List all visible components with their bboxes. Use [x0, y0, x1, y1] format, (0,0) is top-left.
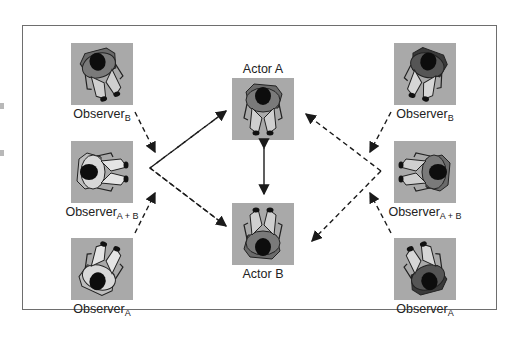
edge-mark: [0, 103, 4, 109]
observer-b-left-label: ObserverB: [52, 107, 152, 123]
observer-a-right-figure: [394, 238, 456, 300]
observer-ab-right-label: ObserverA + B: [375, 205, 475, 221]
observer-a-right-label: ObserverA: [375, 302, 475, 318]
observer-b-left-figure: [71, 43, 133, 105]
observer-a-left-figure: [71, 238, 133, 300]
actor-b-figure: [232, 203, 294, 265]
edge-mark: [0, 150, 4, 156]
observer-ab-right-figure: [394, 141, 456, 203]
actor-b-label: Actor B: [213, 267, 313, 281]
observer-b-right-label: ObserverB: [375, 107, 475, 123]
observer-b-right-figure: [394, 43, 456, 105]
actor-a-label: Actor A: [213, 62, 313, 76]
actor-a-figure: [232, 78, 294, 140]
observer-ab-left-figure: [71, 141, 133, 203]
observer-a-left-label: ObserverA: [52, 302, 152, 318]
observer-ab-left-label: ObserverA + B: [52, 205, 152, 221]
